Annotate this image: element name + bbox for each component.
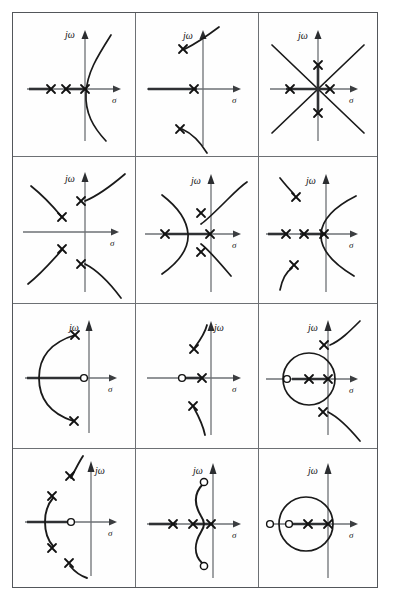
zero-marker bbox=[267, 521, 274, 528]
axes-r4c2 bbox=[147, 463, 241, 578]
imaginary-axis-label: jω bbox=[67, 322, 79, 333]
locus-branch bbox=[71, 456, 83, 478]
locus-branches-r2c1 bbox=[28, 174, 125, 298]
pole-marker bbox=[58, 245, 66, 253]
zero-marker bbox=[68, 519, 75, 526]
imaginary-axis-label: jω bbox=[181, 30, 193, 41]
real-axis-label: σ bbox=[349, 530, 354, 540]
diagram-cell-r1c2: jω σ bbox=[135, 13, 258, 156]
locus-branch bbox=[330, 321, 360, 345]
zero-marker bbox=[179, 375, 186, 382]
pole-marker bbox=[189, 402, 197, 410]
zero-markers-r3c3 bbox=[284, 376, 291, 383]
locus-branch bbox=[195, 325, 207, 347]
pole-marker bbox=[58, 213, 66, 221]
real-axis-arrowhead bbox=[233, 86, 241, 93]
pole-marker bbox=[197, 209, 205, 217]
real-axis-label: σ bbox=[232, 530, 237, 540]
pole-marker bbox=[319, 408, 327, 416]
diagram-cell-r3c2: jω σ bbox=[135, 303, 258, 448]
locus-branches-r3c3 bbox=[283, 321, 360, 441]
imaginary-axis-label: jω bbox=[296, 30, 308, 41]
real-axis-label: σ bbox=[232, 384, 237, 394]
imaginary-axis-arrowhead bbox=[86, 320, 93, 331]
imaginary-axis-arrowhead bbox=[325, 320, 332, 331]
zero-markers-r3c2 bbox=[179, 375, 186, 382]
imaginary-axis-arrowhead bbox=[82, 172, 89, 182]
zero-marker bbox=[284, 376, 291, 383]
imaginary-axis-label: jω bbox=[93, 465, 105, 476]
locus-branches-r1c1 bbox=[86, 35, 111, 141]
locus-branch bbox=[280, 268, 292, 290]
diagram-cell-r1c3: jω σ bbox=[258, 13, 379, 156]
axes-r3c3 bbox=[266, 320, 358, 435]
locus-branch bbox=[201, 244, 231, 276]
real-axis-label: σ bbox=[349, 95, 354, 105]
real-axis-arrowhead bbox=[350, 521, 358, 528]
imaginary-axis-arrowhead bbox=[325, 463, 332, 474]
imaginary-axis-arrowhead bbox=[315, 30, 322, 39]
imaginary-axis-label: jω bbox=[63, 29, 75, 40]
real-axis-arrowhead bbox=[233, 231, 241, 238]
axes-r1c1 bbox=[27, 30, 121, 141]
figure-frame: jω σ bbox=[12, 12, 378, 588]
locus-branches-r2c2 bbox=[162, 182, 247, 276]
locus-branch bbox=[85, 174, 125, 201]
imaginary-axis-arrowhead bbox=[208, 174, 215, 184]
imaginary-axis-arrowhead bbox=[88, 461, 95, 472]
imaginary-axis-label: jω bbox=[189, 175, 201, 186]
locus-branch bbox=[86, 35, 111, 141]
diagram-cell-r4c1: jω σ bbox=[13, 448, 135, 589]
real-axis-label: σ bbox=[108, 528, 113, 538]
pole-marker bbox=[292, 193, 300, 201]
pole-marker bbox=[77, 260, 85, 268]
pole-marker bbox=[190, 345, 198, 353]
diagram-cell-r3c1: jω σ bbox=[13, 303, 135, 448]
diagram-cell-r4c3: jω σ bbox=[258, 448, 379, 589]
real-axis-arrowhead bbox=[350, 231, 358, 238]
real-axis-arrowhead bbox=[350, 376, 358, 383]
imaginary-axis-arrowhead bbox=[210, 463, 217, 474]
locus-branch bbox=[328, 412, 360, 441]
real-axis-arrowhead bbox=[109, 519, 117, 526]
locus-branch bbox=[194, 408, 205, 435]
zero-marker bbox=[200, 562, 207, 569]
real-axis-label: σ bbox=[349, 385, 354, 395]
locus-branch bbox=[201, 182, 247, 224]
imaginary-axis-label: jω bbox=[63, 173, 75, 184]
zero-marker bbox=[200, 478, 207, 485]
real-axis-arrowhead bbox=[113, 86, 121, 93]
pole-marker bbox=[320, 341, 328, 349]
locus-branch bbox=[31, 186, 61, 216]
imaginary-axis-label: jω bbox=[306, 322, 318, 333]
real-axis-label: σ bbox=[232, 95, 237, 105]
pole-marker bbox=[290, 261, 298, 269]
imaginary-axis-label: jω bbox=[304, 175, 316, 186]
imaginary-axis-label: jω bbox=[212, 322, 224, 333]
pole-marker bbox=[65, 559, 73, 567]
pole-marker bbox=[77, 197, 85, 205]
imaginary-axis-label: jω bbox=[306, 465, 318, 476]
real-axis-label: σ bbox=[349, 240, 354, 250]
real-axis-arrowhead bbox=[111, 229, 119, 236]
pole-marker bbox=[197, 248, 205, 256]
diagram-cell-r1c1: jω σ bbox=[13, 13, 135, 156]
locus-branch bbox=[28, 250, 62, 284]
zero-marker bbox=[286, 521, 293, 528]
real-axis-arrowhead bbox=[109, 375, 117, 382]
diagram-cell-r2c3: jω σ bbox=[258, 156, 379, 303]
imaginary-axis-arrowhead bbox=[323, 174, 330, 184]
real-axis-label: σ bbox=[232, 240, 237, 250]
real-axis-label: σ bbox=[110, 238, 115, 248]
real-axis-arrowhead bbox=[350, 86, 358, 93]
locus-branch bbox=[85, 264, 121, 298]
real-axis-label: σ bbox=[112, 95, 117, 105]
locus-branch bbox=[280, 178, 294, 194]
real-axis-arrowhead bbox=[233, 375, 241, 382]
imaginary-axis-arrowhead bbox=[82, 30, 89, 39]
figure-page: jω σ bbox=[0, 0, 396, 607]
zero-markers-r4c1 bbox=[68, 519, 75, 526]
zero-marker bbox=[81, 375, 88, 382]
imaginary-axis-label: jω bbox=[191, 465, 203, 476]
diagram-cell-r3c3: jω σ bbox=[258, 303, 379, 448]
